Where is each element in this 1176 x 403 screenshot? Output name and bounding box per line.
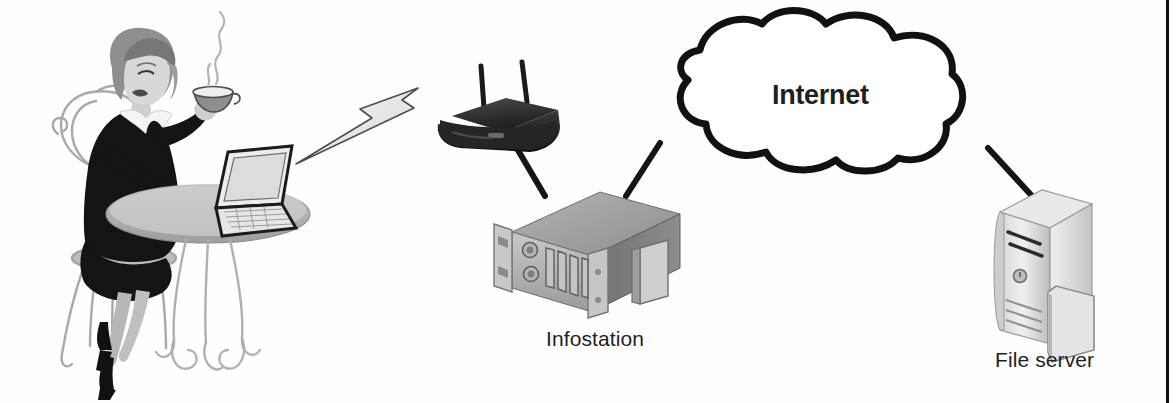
- side-bracket: [640, 240, 668, 304]
- page-border-rule: [1166, 0, 1169, 403]
- network-diagram-canvas: Internet Infostation File server: [0, 0, 1176, 403]
- wireless-access-point-icon: [438, 62, 560, 152]
- laptop-icon: [216, 146, 296, 236]
- file-server-label: File server: [995, 348, 1094, 372]
- seated-woman-with-laptop-illustration: [53, 12, 310, 400]
- internet-cloud-label: Internet: [772, 80, 869, 111]
- rack-server-appliance-icon: [494, 192, 680, 318]
- wireless-lightning-bolt-link: [296, 88, 418, 164]
- tower-server-icon: [994, 190, 1094, 362]
- steam-icon: [208, 12, 225, 86]
- cable-infostation-to-internet: [626, 143, 660, 196]
- cable-internet-to-fileserver: [988, 148, 1032, 196]
- infostation-label: Infostation: [546, 327, 644, 351]
